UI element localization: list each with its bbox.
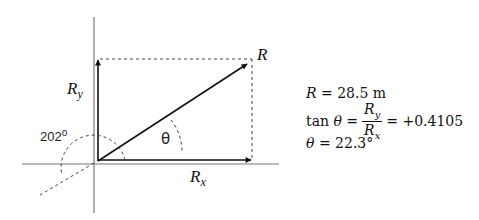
num-sub: y <box>375 109 381 120</box>
eq3-rhs: = 22.3° <box>319 135 373 151</box>
eq2-equals: = <box>346 114 358 128</box>
angle-unit: o <box>62 127 68 138</box>
eq2-rhs: = +0.4105 <box>386 114 463 128</box>
equations-block: R = 28.5 m tan θ = Ry Rx = +0.4105 θ = 2… <box>306 86 463 150</box>
dashed-extension <box>40 163 94 195</box>
label-Rx-sub: x <box>200 175 205 189</box>
label-R: R <box>257 46 267 63</box>
equation-angle: θ = 22.3° <box>306 136 463 150</box>
label-Ry-base: R <box>67 79 77 98</box>
den-sub: x <box>375 129 381 140</box>
label-Ry: Ry <box>67 80 83 100</box>
fraction-numerator: Ry <box>362 102 382 122</box>
label-Rx: Rx <box>190 168 206 188</box>
num-base: R <box>364 101 375 117</box>
r-vector <box>98 64 247 161</box>
eq1-lhs: R <box>306 85 317 101</box>
label-angle-202: 202o <box>40 128 67 143</box>
equation-tangent: tan θ = Ry Rx = +0.4105 <box>306 104 463 138</box>
theta-arc <box>171 120 182 151</box>
angle-value: 202 <box>40 129 62 144</box>
equation-magnitude: R = 28.5 m <box>306 86 463 100</box>
eq3-lhs: θ <box>306 135 314 151</box>
vector-diagram <box>0 0 300 220</box>
label-Ry-sub: y <box>77 87 82 101</box>
label-Rx-base: R <box>190 167 200 186</box>
eq2-var: θ <box>333 114 341 128</box>
eq1-rhs: = 28.5 m <box>321 85 386 101</box>
angle-202-arc <box>61 135 125 175</box>
label-theta: θ <box>161 132 170 147</box>
eq2-fn: tan <box>306 114 329 128</box>
